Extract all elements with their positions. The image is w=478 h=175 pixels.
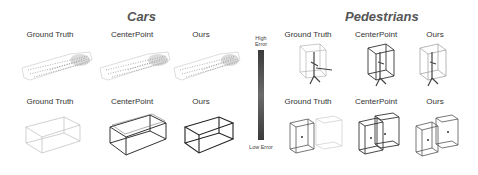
ped-centerpoint-pointcloud — [364, 42, 400, 88]
error-colorbar — [258, 50, 264, 140]
cars-cp-label-top: CenterPoint — [97, 30, 167, 39]
pedestrians-title: Pedestrians — [345, 9, 419, 24]
cars-gt-label-bottom: Ground Truth — [15, 97, 85, 106]
ped-gt-label-bottom: Ground Truth — [273, 97, 343, 106]
colorbar-high-label: High Error — [249, 35, 273, 47]
cars-ours-label-bottom: Ours — [166, 97, 236, 106]
cars-gt-pointcloud — [20, 50, 92, 82]
ped-ours-boxes — [414, 114, 466, 158]
cars-gt-label-top: Ground Truth — [15, 30, 85, 39]
cars-ours-pointcloud — [172, 50, 240, 82]
ped-gt-pointcloud — [296, 42, 336, 88]
cars-centerpoint-pointcloud — [98, 50, 170, 82]
colorbar-low-label: Low Error — [249, 144, 273, 150]
cars-ours-label-top: Ours — [166, 30, 236, 39]
cars-title: Cars — [127, 9, 156, 24]
cars-cp-label-bottom: CenterPoint — [97, 97, 167, 106]
cars-gt-box — [24, 115, 82, 155]
cars-ours-box — [183, 115, 235, 155]
ped-ours-label-top: Ours — [400, 30, 470, 39]
ped-gt-label-top: Ground Truth — [273, 30, 343, 39]
ped-ours-pointcloud — [418, 42, 452, 88]
cars-centerpoint-box — [108, 113, 168, 157]
ped-gt-boxes — [288, 115, 348, 159]
ped-ours-label-bottom: Ours — [400, 97, 470, 106]
ped-centerpoint-boxes — [357, 112, 409, 160]
